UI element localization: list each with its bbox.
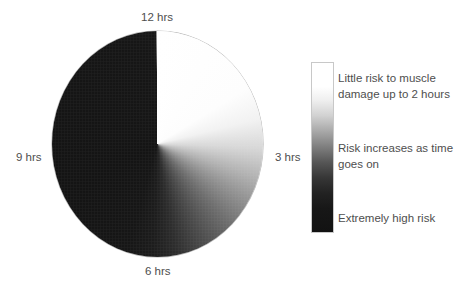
clock-label-9-hrs: 9 hrs <box>16 151 42 164</box>
legend-entry-extreme-risk: Extremely high risk <box>338 210 462 226</box>
clock-label-3-hrs: 3 hrs <box>275 151 301 164</box>
clock-label-12-hrs: 12 hrs <box>141 11 173 24</box>
legend-entry-increasing-risk: Risk increases as time goes on <box>338 140 462 172</box>
risk-colorbar <box>311 62 334 233</box>
risk-clock-figure: 12 hrs 3 hrs 6 hrs 9 hrs Little risk to … <box>0 0 465 292</box>
clock-label-6-hrs: 6 hrs <box>145 265 171 278</box>
risk-clock-chart <box>52 31 263 257</box>
legend-entry-low-risk: Little risk to muscle damage up to 2 hou… <box>338 70 462 102</box>
